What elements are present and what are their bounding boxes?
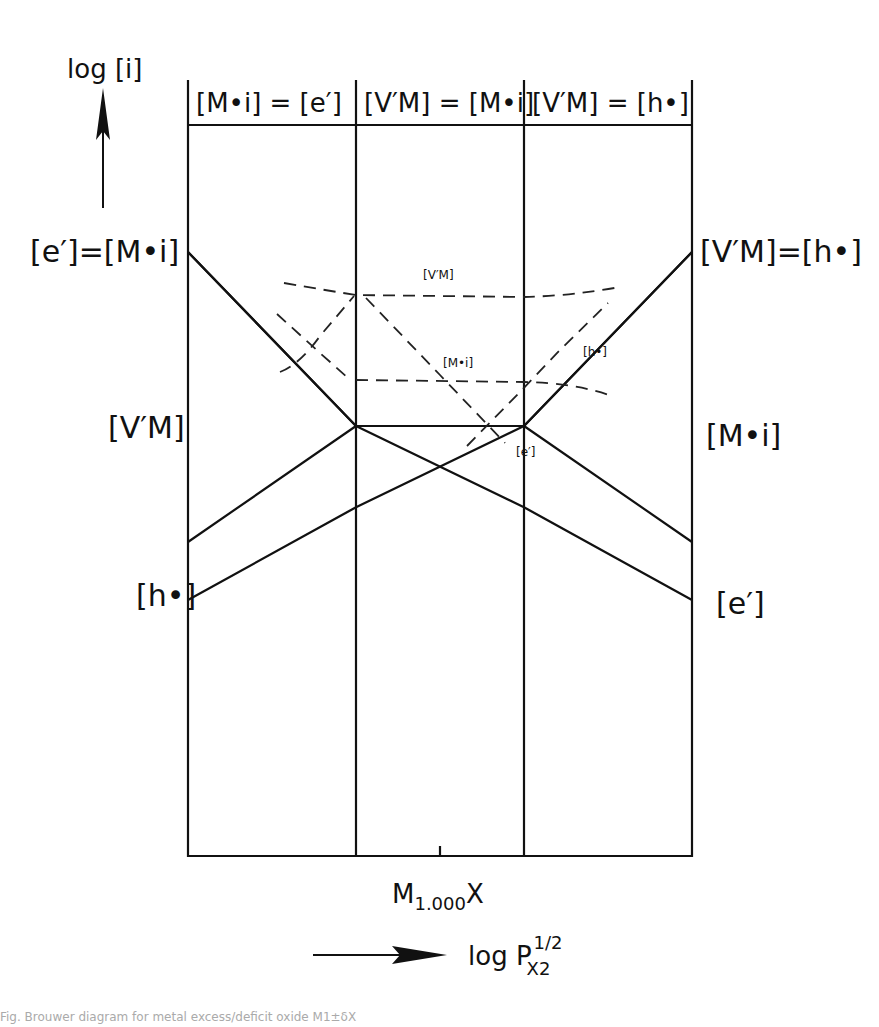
- y-axis-label: log [i]: [67, 54, 142, 84]
- right-label-VM-h: [V′M]=[h•]: [700, 234, 862, 269]
- h-dashed-diagonal: [467, 303, 608, 446]
- region-2-header: [V′M] = [M•i]: [364, 88, 534, 118]
- inner-label-h: [h•]: [583, 345, 607, 359]
- VM-transition-dashed: [284, 283, 620, 297]
- Mi-transition-dashed: [356, 380, 612, 396]
- region-3-header: [V′M] = [h•]: [532, 88, 689, 118]
- figure-caption: Fig. Brouwer diagram for metal excess/de…: [0, 1010, 879, 1027]
- inner-label-VM: [V′M]: [423, 268, 454, 282]
- left-label-VM: [V′M]: [108, 410, 185, 445]
- left-label-h: [h•]: [136, 578, 196, 613]
- frame: [188, 80, 692, 857]
- inner-label-e: [e′]: [516, 445, 535, 459]
- right-label-Mi: [M•i]: [706, 418, 781, 453]
- species-lines: [188, 252, 692, 600]
- left-rising-dashed: [280, 296, 354, 372]
- species-line-Mi: [188, 252, 692, 542]
- left-label-e-Mi: [e′]=[M•i]: [30, 234, 179, 269]
- x-axis-arrow: [313, 946, 447, 964]
- e-dashed-diagonal: [366, 298, 505, 443]
- stoichiometry-label: M1.000X: [392, 879, 484, 914]
- x-axis-label: log P1/2X2: [468, 932, 563, 979]
- y-axis-arrow: [96, 88, 110, 208]
- region-1-header: [M•i] = [e′]: [196, 88, 342, 118]
- inner-label-Mi: [M•i]: [443, 356, 473, 370]
- right-label-e: [e′]: [716, 586, 765, 621]
- brouwer-diagram: log [i] [M•i] = [e′] [V′M] = [M•i] [V′M]…: [0, 0, 879, 1027]
- species-line-VM: [188, 252, 692, 542]
